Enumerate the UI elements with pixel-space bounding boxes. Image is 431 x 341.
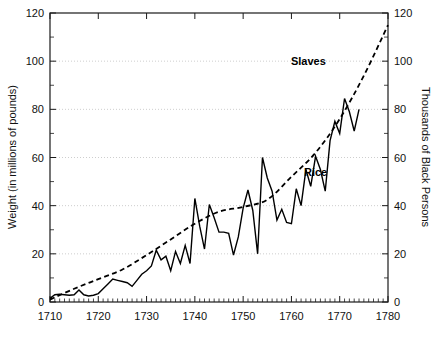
y-axis-left-ticks — [50, 13, 56, 302]
y-right-tick-label-80: 80 — [394, 103, 406, 115]
chart-figure: 17101720173017401750176017701780 0204060… — [0, 0, 431, 341]
gridlines-group — [50, 61, 388, 254]
x-tick-label-1720: 1720 — [86, 310, 110, 322]
y-axis-right-title: Thousands of Black Persons — [420, 87, 431, 228]
x-tick-label-1740: 1740 — [183, 310, 207, 322]
rice-series-line — [50, 99, 359, 299]
y-axis-left-title: Weight (in millions of pounds) — [6, 85, 18, 229]
y-left-tick-label-120: 120 — [26, 7, 44, 19]
x-tick-label-1750: 1750 — [231, 310, 255, 322]
x-tick-label-1760: 1760 — [279, 310, 303, 322]
x-tick-label-1730: 1730 — [134, 310, 158, 322]
slaves-series-line — [50, 25, 388, 300]
y-right-tick-label-0: 0 — [394, 296, 400, 308]
y-right-tick-label-20: 20 — [394, 248, 406, 260]
y-axis-right-ticks — [382, 13, 388, 302]
y-axis-right-tick-labels: 020406080100120 — [394, 7, 412, 308]
y-left-tick-label-80: 80 — [32, 103, 44, 115]
slaves-series-label: Slaves — [291, 55, 326, 67]
rice-series-label: Rice — [304, 166, 327, 178]
chart-canvas: 17101720173017401750176017701780 0204060… — [0, 0, 431, 341]
x-axis-tick-labels: 17101720173017401750176017701780 — [38, 310, 400, 322]
y-left-tick-label-0: 0 — [38, 296, 44, 308]
y-left-tick-label-20: 20 — [32, 248, 44, 260]
y-left-tick-label-40: 40 — [32, 200, 44, 212]
y-left-tick-label-60: 60 — [32, 152, 44, 164]
y-right-tick-label-100: 100 — [394, 55, 412, 67]
y-right-tick-label-60: 60 — [394, 152, 406, 164]
y-right-tick-label-40: 40 — [394, 200, 406, 212]
y-right-tick-label-120: 120 — [394, 7, 412, 19]
x-tick-label-1770: 1770 — [327, 310, 351, 322]
x-tick-label-1780: 1780 — [376, 310, 400, 322]
y-axis-left-tick-labels: 020406080100120 — [26, 7, 44, 308]
y-left-tick-label-100: 100 — [26, 55, 44, 67]
x-tick-label-1710: 1710 — [38, 310, 62, 322]
